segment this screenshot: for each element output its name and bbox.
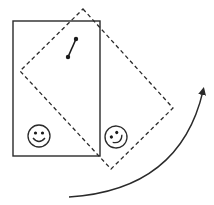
- rotated-rectangle-dashed: [20, 9, 173, 169]
- original-rectangle: [13, 21, 100, 156]
- smiley-face-icon: [28, 125, 50, 147]
- rotation-diagram: [0, 0, 214, 205]
- segment-endpoint-top: [74, 37, 78, 41]
- segment-endpoint-bottom: [66, 55, 70, 59]
- diagram-canvas: [0, 0, 214, 205]
- line-segment: [66, 37, 78, 59]
- rotated-smiley-face-icon: [101, 122, 132, 153]
